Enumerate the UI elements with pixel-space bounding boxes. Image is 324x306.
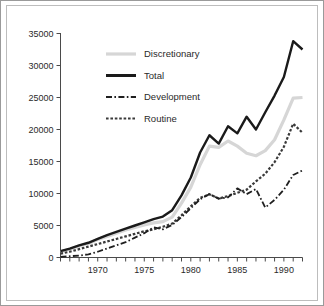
y-axis-tick-label: 15000: [28, 157, 53, 167]
x-axis-tick-label: 1985: [227, 265, 247, 275]
x-axis-tick-label: 1990: [274, 265, 294, 275]
line-chart-plot: 05000100001500020000250003000035000 1970…: [0, 0, 324, 306]
y-axis-tick-label: 25000: [28, 93, 53, 103]
data-series-group: [61, 41, 303, 257]
series-line-total: [61, 41, 303, 251]
x-axis: 19701975198019851990: [61, 258, 303, 275]
series-line-discretionary: [61, 98, 303, 252]
y-axis-tick-label: 20000: [28, 125, 53, 135]
x-axis-tick-label: 1980: [181, 265, 201, 275]
chart-figure: 05000100001500020000250003000035000 1970…: [0, 0, 324, 306]
legend-label-total: Total: [144, 70, 164, 81]
x-axis-tick-label: 1975: [134, 265, 154, 275]
y-axis-tick-label: 35000: [28, 29, 53, 39]
legend-label-development: Development: [144, 91, 200, 102]
y-axis-tick-label: 10000: [28, 189, 53, 199]
y-axis-tick-label: 0: [48, 253, 53, 263]
x-axis-tick-label: 1970: [88, 265, 108, 275]
legend-label-routine: Routine: [144, 113, 177, 124]
y-axis-tick-label: 5000: [33, 221, 53, 231]
chart-legend: DiscretionaryTotalDevelopmentRoutine: [106, 48, 200, 124]
y-axis-tick-label: 30000: [28, 61, 53, 71]
y-axis: 05000100001500020000250003000035000: [28, 29, 60, 263]
series-line-routine: [61, 124, 303, 254]
legend-label-discretionary: Discretionary: [144, 48, 200, 59]
